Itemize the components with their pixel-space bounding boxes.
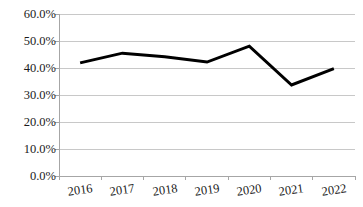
x-axis-labels: 2016201720182019202020212022	[0, 0, 363, 207]
x-axis-tick-label: 2018	[143, 181, 187, 199]
x-axis-tick-label: 2017	[101, 181, 145, 199]
x-axis-tick-label: 2020	[227, 181, 271, 199]
x-axis-tick-label: 2019	[185, 181, 229, 199]
line-chart: 0.0%10.0%20.0%30.0%40.0%50.0%60.0% 20162…	[0, 0, 363, 207]
x-axis-tick-label: 2021	[270, 181, 314, 199]
x-axis-tick-label: 2016	[58, 181, 102, 199]
x-axis-tick-label: 2022	[312, 181, 356, 199]
